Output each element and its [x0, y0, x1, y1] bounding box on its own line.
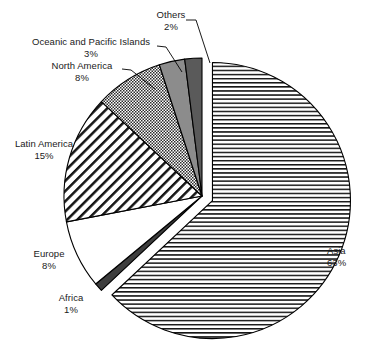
slice-label-oceanic-and-pacific-islands-percent: 3%	[25, 48, 157, 60]
slice-label-others: Others 2%	[141, 9, 201, 32]
slice-label-asia-percent: 63%	[327, 257, 369, 269]
slice-label-others-percent: 2%	[141, 21, 201, 33]
slice-label-others-name: Others	[141, 9, 201, 21]
pie-chart: Others 2% Oceanic and Pacific Islands 3%…	[0, 0, 373, 346]
slice-label-oceanic-and-pacific-islands: Oceanic and Pacific Islands 3%	[25, 36, 157, 59]
slice-label-oceanic-and-pacific-islands-name: Oceanic and Pacific Islands	[25, 36, 157, 48]
slice-label-asia: Asia 63%	[327, 245, 369, 268]
slice-label-africa-percent: 1%	[48, 304, 94, 316]
slice-label-north-america-percent: 8%	[42, 72, 122, 84]
slice-label-latin-america: Latin America 15%	[5, 138, 83, 161]
slice-label-north-america: North America 8%	[42, 60, 122, 83]
slice-label-europe-name: Europe	[24, 248, 74, 260]
pie-slices-group	[64, 58, 350, 339]
slice-label-africa: Africa 1%	[48, 292, 94, 315]
slice-label-latin-america-name: Latin America	[5, 138, 83, 150]
slice-label-europe: Europe 8%	[24, 248, 74, 271]
slice-label-north-america-name: North America	[42, 60, 122, 72]
slice-label-africa-name: Africa	[48, 292, 94, 304]
slice-label-latin-america-percent: 15%	[5, 150, 83, 162]
slice-label-europe-percent: 8%	[24, 260, 74, 272]
slice-label-asia-name: Asia	[327, 245, 369, 257]
